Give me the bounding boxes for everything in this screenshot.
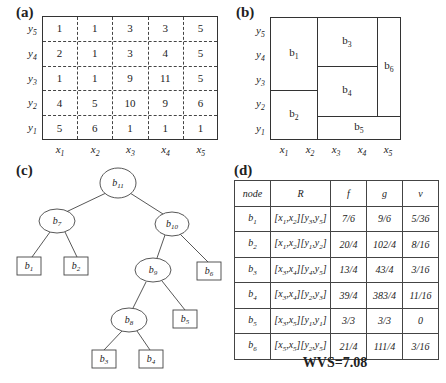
row-label: y3 xyxy=(256,73,265,88)
row-label: y4 xyxy=(256,48,265,63)
table-row: b1[x1,x2][y3,y5]7/69/65/36 xyxy=(235,206,439,232)
column-label: x5 xyxy=(380,143,396,158)
cell-r: [x1,x2][y1,y2] xyxy=(271,232,331,258)
region-label: b6 xyxy=(384,59,393,74)
region-b3: b3 xyxy=(317,18,377,66)
row-label: y1 xyxy=(28,121,37,136)
column-label: x2 xyxy=(302,143,318,158)
cell-r: [x3,x4][y2,y3] xyxy=(271,283,331,309)
cell-node: b3 xyxy=(235,257,271,283)
region-b4: b4 xyxy=(317,66,377,116)
region-label: b3 xyxy=(342,34,351,49)
value-grid: 113352134511911545109656111 xyxy=(42,16,218,140)
cell-r: [x1,x2][y3,y5] xyxy=(271,206,331,232)
cell-g: 9/6 xyxy=(367,206,403,232)
grid-cell: 1 xyxy=(183,115,218,140)
cell-f: 39/4 xyxy=(331,283,367,309)
panel-b-label: (b) xyxy=(236,4,254,21)
region-b1: b1 xyxy=(271,18,317,90)
grid-cell: 9 xyxy=(112,66,147,91)
cell-v: 3/16 xyxy=(403,257,439,283)
region-label: b5 xyxy=(354,120,363,135)
column-header-v: v xyxy=(403,181,439,207)
panel-a-label: (a) xyxy=(16,4,34,21)
node-table: node R f g v b1[x1,x2][y3,y5]7/69/65/36b… xyxy=(234,180,439,360)
region-b5: b5 xyxy=(317,116,401,140)
column-label: x1 xyxy=(52,143,68,158)
cell-v: 11/16 xyxy=(403,283,439,309)
cell-node: b5 xyxy=(235,308,271,334)
cell-f: 3/3 xyxy=(331,308,367,334)
grid-cell: 5 xyxy=(183,41,218,66)
cell-node: b4 xyxy=(235,283,271,309)
column-label: x1 xyxy=(276,143,292,158)
panel-d-label: (d) xyxy=(234,162,252,179)
grid-cell: 4 xyxy=(148,41,183,66)
cell-v: 0 xyxy=(403,308,439,334)
column-header-r: R xyxy=(271,181,331,207)
table-row: b2[x1,x2][y1,y2]20/4102/48/16 xyxy=(235,232,439,258)
grid-cell: 1 xyxy=(42,16,77,41)
grid-cell: 4 xyxy=(42,90,77,115)
cell-g: 3/3 xyxy=(367,308,403,334)
cell-g: 383/4 xyxy=(367,283,403,309)
cell-g: 43/4 xyxy=(367,257,403,283)
cell-node: b1 xyxy=(235,206,271,232)
grid-cell: 5 xyxy=(183,66,218,91)
binary-tree: b11b7b10b9b8b1b2b6b5b3b4 xyxy=(0,160,225,383)
table-row: b3[x3,x4][y4,y5]13/443/43/16 xyxy=(235,257,439,283)
grid-cell: 1 xyxy=(112,115,147,140)
cell-f: 13/4 xyxy=(331,257,367,283)
grid-cell: 3 xyxy=(148,16,183,41)
column-label: x5 xyxy=(193,143,209,158)
column-label: x3 xyxy=(122,143,138,158)
grid-cell: 9 xyxy=(148,90,183,115)
grid-cell: 2 xyxy=(42,41,77,66)
cell-r: [x3,x4][y4,y5] xyxy=(271,257,331,283)
column-header-g: g xyxy=(367,181,403,207)
cell-f: 20/4 xyxy=(331,232,367,258)
grid-cell: 5 xyxy=(42,115,77,140)
wvs-result: WVS=7.08 xyxy=(234,355,436,371)
cell-v: 8/16 xyxy=(403,232,439,258)
grid-cell: 6 xyxy=(183,90,218,115)
partition-diagram: b1 b2 b3 b4 b5 b6 xyxy=(270,17,401,140)
row-label: y5 xyxy=(256,24,265,39)
cell-g: 102/4 xyxy=(367,232,403,258)
cell-f: 7/6 xyxy=(331,206,367,232)
row-label: y5 xyxy=(28,22,37,37)
grid-cell: 1 xyxy=(148,115,183,140)
region-label: b4 xyxy=(342,83,351,98)
column-header-node: node xyxy=(235,181,271,207)
grid-cell: 6 xyxy=(77,115,112,140)
cell-r: [x3,x5][y1,y1] xyxy=(271,308,331,334)
table-row: b5[x3,x5][y1,y1]3/33/30 xyxy=(235,308,439,334)
region-b6: b6 xyxy=(377,18,401,116)
column-label: x4 xyxy=(354,143,370,158)
row-label: y2 xyxy=(256,97,265,112)
column-label: x4 xyxy=(158,143,174,158)
region-b2: b2 xyxy=(271,90,317,140)
table-header-row: node R f g v xyxy=(235,181,439,207)
column-header-f: f xyxy=(331,181,367,207)
grid-cell: 1 xyxy=(77,66,112,91)
row-label: y1 xyxy=(256,122,265,137)
grid-cell: 5 xyxy=(77,90,112,115)
grid-cell: 3 xyxy=(112,41,147,66)
cell-v: 5/36 xyxy=(403,206,439,232)
row-label: y2 xyxy=(28,96,37,111)
region-label: b1 xyxy=(289,46,298,61)
table-row: b4[x3,x4][y2,y3]39/4383/411/16 xyxy=(235,283,439,309)
grid-cell: 11 xyxy=(148,66,183,91)
column-label: x3 xyxy=(328,143,344,158)
row-label: y3 xyxy=(28,72,37,87)
row-label: y4 xyxy=(28,47,37,62)
grid-cell: 3 xyxy=(112,16,147,41)
grid-cell: 1 xyxy=(77,16,112,41)
cell-node: b2 xyxy=(235,232,271,258)
grid-cell: 1 xyxy=(42,66,77,91)
grid-cell: 5 xyxy=(183,16,218,41)
region-label: b2 xyxy=(289,107,298,122)
column-label: x2 xyxy=(87,143,103,158)
grid-cell: 10 xyxy=(112,90,147,115)
